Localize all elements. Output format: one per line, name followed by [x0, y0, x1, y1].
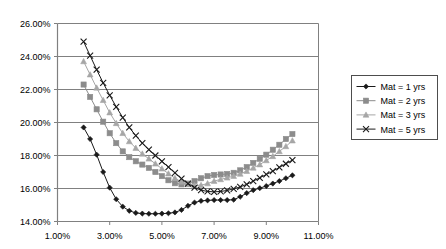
data-point-marker	[94, 85, 100, 90]
y-axis-tick-label: 20.00%	[20, 118, 51, 128]
series-line	[84, 85, 293, 185]
data-point-marker	[290, 173, 295, 178]
data-point-marker	[212, 197, 217, 202]
data-point-marker	[94, 152, 99, 157]
data-point-marker	[107, 92, 113, 98]
data-point-marker	[270, 147, 275, 152]
data-point-marker	[120, 149, 125, 154]
x-axis-tick-label: 1.00%	[45, 231, 71, 241]
data-point-marker	[133, 133, 139, 139]
data-point-marker	[276, 148, 282, 153]
data-point-marker	[152, 161, 158, 166]
data-point-marker	[140, 162, 145, 167]
data-point-marker	[140, 211, 145, 216]
data-point-marker	[146, 165, 151, 170]
data-point-marker	[87, 53, 93, 59]
data-point-marker	[166, 171, 172, 176]
y-axis-tick-label: 26.00%	[20, 19, 51, 29]
data-point-marker	[250, 178, 256, 184]
data-point-marker	[153, 211, 158, 216]
data-point-marker	[159, 166, 165, 171]
data-point-marker	[290, 131, 295, 136]
data-point-marker	[198, 176, 203, 181]
data-point-marker	[283, 176, 288, 181]
data-point-marker	[185, 203, 190, 208]
data-point-marker	[172, 175, 178, 180]
data-point-marker	[88, 136, 93, 141]
data-point-marker	[101, 119, 106, 124]
data-point-marker	[153, 169, 158, 174]
data-point-marker	[192, 200, 197, 205]
data-point-marker	[257, 162, 263, 167]
data-point-marker	[107, 131, 112, 136]
data-point-marker	[146, 211, 151, 216]
data-point-marker	[264, 183, 269, 188]
data-point-marker	[277, 178, 282, 183]
data-point-marker	[270, 168, 276, 174]
data-point-marker	[264, 152, 269, 157]
x-axis-tick-label: 3.00%	[97, 231, 123, 241]
x-axis-tick-label: 9.00%	[254, 231, 280, 241]
data-point-marker	[94, 67, 100, 73]
data-point-marker	[146, 156, 152, 161]
x-axis-tick-labels: 1.00%3.00%5.00%7.00%9.00%11.00%	[45, 231, 334, 241]
data-point-marker	[257, 186, 262, 191]
series-line	[84, 42, 293, 192]
data-point-marker	[87, 72, 93, 77]
data-point-marker	[276, 164, 282, 170]
data-point-marker	[283, 136, 288, 141]
data-point-marker	[166, 211, 171, 216]
plot-gridlines	[58, 24, 319, 189]
data-point-marker	[172, 210, 177, 215]
y-axis-tick-label: 16.00%	[20, 184, 51, 194]
data-point-marker	[113, 104, 119, 110]
data-series-3	[81, 58, 296, 187]
data-point-marker	[126, 124, 132, 130]
data-point-marker	[290, 138, 296, 143]
data-series-4	[81, 39, 296, 195]
y-axis-tick-label: 14.00%	[20, 217, 51, 227]
data-point-marker	[283, 161, 289, 167]
data-point-marker	[88, 94, 93, 99]
data-point-marker	[257, 175, 263, 181]
data-point-marker	[289, 157, 295, 163]
data-point-marker	[159, 158, 165, 164]
data-point-marker	[159, 211, 164, 216]
data-point-marker	[270, 181, 275, 186]
y-axis-tick-label: 22.00%	[20, 85, 51, 95]
data-point-marker	[139, 140, 145, 146]
data-point-marker	[165, 164, 171, 170]
data-point-marker	[81, 39, 87, 45]
line-chart: 14.00%16.00%18.00%20.00%22.00%24.00%26.0…	[0, 0, 446, 249]
y-axis-tick-label: 24.00%	[20, 52, 51, 62]
data-series-group	[81, 39, 296, 217]
data-point-marker	[127, 155, 132, 160]
data-point-marker	[107, 110, 113, 115]
data-point-marker	[363, 98, 368, 103]
y-axis-tick-labels: 14.00%16.00%18.00%20.00%22.00%24.00%26.0…	[20, 19, 51, 227]
legend-item-label: Mat = 3 yrs	[381, 110, 426, 120]
plot-axes	[54, 24, 319, 226]
data-point-marker	[127, 208, 132, 213]
data-point-marker	[94, 107, 99, 112]
data-point-marker	[225, 197, 230, 202]
data-point-marker	[81, 58, 87, 63]
data-point-marker	[146, 147, 152, 153]
data-point-marker	[100, 80, 106, 86]
data-point-marker	[244, 181, 250, 187]
data-point-marker	[114, 141, 119, 146]
data-point-marker	[263, 157, 269, 162]
data-point-marker	[198, 198, 203, 203]
y-axis-tick-label: 18.00%	[20, 151, 51, 161]
chart-figure: 14.00%16.00%18.00%20.00%22.00%24.00%26.0…	[0, 0, 446, 249]
legend-item-label: Mat = 5 yrs	[381, 125, 426, 135]
data-point-marker	[133, 159, 138, 164]
data-point-marker	[159, 174, 164, 179]
data-series-2	[81, 82, 295, 187]
data-point-marker	[172, 181, 177, 186]
data-point-marker	[100, 97, 106, 102]
legend-item-label: Mat = 2 yrs	[381, 96, 426, 106]
data-point-marker	[205, 174, 210, 179]
data-point-marker	[212, 172, 217, 177]
data-point-marker	[238, 194, 243, 199]
